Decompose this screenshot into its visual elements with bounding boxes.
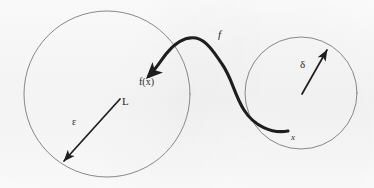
epsilon-radius-arrow [64,99,120,161]
figure-drawing [0,0,374,188]
delta-ball-circle [245,37,357,149]
delta-radius-arrow [302,50,327,94]
epsilon-ball-circle [24,11,190,177]
diagram-canvas: L ε f(x) f δ x [0,0,374,188]
function-curve-f [149,38,288,132]
